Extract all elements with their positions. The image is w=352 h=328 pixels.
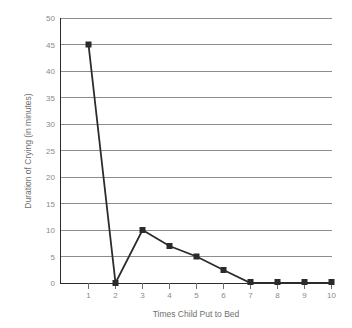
data-point-9 — [302, 279, 308, 285]
x-tick-label-10: 10 — [327, 291, 336, 300]
data-point-3 — [140, 227, 146, 233]
y-tick-label-40: 40 — [46, 67, 55, 76]
data-point-10 — [329, 279, 335, 285]
x-tick-label-5: 5 — [194, 291, 199, 300]
data-point-4 — [167, 243, 173, 249]
y-axis: 50 45 40 35 30 25 20 15 10 5 0 — [46, 14, 60, 288]
x-tick-label-3: 3 — [140, 291, 145, 300]
y-tick-label-15: 15 — [46, 200, 55, 209]
y-tick-label-45: 45 — [46, 41, 55, 50]
gridlines — [60, 18, 332, 257]
x-tick-label-9: 9 — [302, 291, 307, 300]
x-tick-label-1: 1 — [86, 291, 91, 300]
y-tick-label-10: 10 — [46, 226, 55, 235]
data-point-6 — [221, 267, 227, 273]
y-tick-label-50: 50 — [46, 14, 55, 23]
x-tick-label-4: 4 — [167, 291, 172, 300]
x-tick-label-7: 7 — [248, 291, 253, 300]
chart-canvas: 50 45 40 35 30 25 20 15 10 5 0 1 2 — [0, 0, 352, 328]
y-axis-title: Duration of Crying (in minutes) — [23, 93, 33, 208]
line-chart: 50 45 40 35 30 25 20 15 10 5 0 1 2 — [0, 0, 352, 328]
y-tick-label-35: 35 — [46, 94, 55, 103]
x-tick-label-6: 6 — [221, 291, 226, 300]
data-point-7 — [248, 279, 254, 285]
y-tick-label-25: 25 — [46, 147, 55, 156]
x-axis: 1 2 3 4 5 6 7 8 9 10 — [60, 283, 336, 300]
data-point-1 — [86, 42, 92, 48]
x-tick-label-2: 2 — [113, 291, 118, 300]
y-tick-label-20: 20 — [46, 173, 55, 182]
data-point-5 — [194, 254, 200, 260]
x-tick-label-8: 8 — [275, 291, 280, 300]
data-point-8 — [275, 279, 281, 285]
data-series-crying-duration — [86, 42, 335, 287]
y-tick-label-30: 30 — [46, 120, 55, 129]
series-line-crying-duration — [89, 45, 332, 284]
data-point-2 — [113, 280, 119, 286]
y-tick-label-5: 5 — [51, 253, 56, 262]
y-tick-label-0: 0 — [51, 279, 56, 288]
x-axis-title: Times Child Put to Bed — [153, 309, 240, 319]
